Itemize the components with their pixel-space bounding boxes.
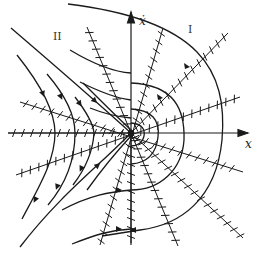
isocline-tick — [223, 221, 231, 225]
isocline-tick — [191, 66, 195, 74]
phase-portrait-diagram: x ẋ I II — [0, 0, 262, 262]
region-label-2: II — [53, 30, 62, 43]
isocline-tick — [23, 100, 28, 107]
trajectory-arc — [68, 4, 223, 236]
isocline-tick — [134, 124, 138, 132]
isocline-tick — [222, 33, 226, 41]
isocline-tick — [145, 148, 153, 152]
arrow-icon — [184, 63, 190, 69]
trajectories-left — [11, 28, 131, 247]
arrow-icon — [157, 94, 163, 100]
trajectories-right — [68, 4, 223, 236]
isocline-tick — [172, 85, 176, 93]
arrow-icon — [116, 187, 122, 193]
isocline-tick — [221, 162, 226, 169]
isocline-tick — [57, 111, 62, 118]
y-axis-label: ẋ — [139, 14, 146, 28]
isocline-tick — [160, 144, 165, 151]
isocline-tick — [178, 178, 186, 182]
isocline-tick — [209, 46, 213, 54]
isocline-tick — [178, 79, 182, 87]
axes — [8, 12, 248, 245]
isocline-tick — [229, 165, 234, 172]
isocline-tick — [66, 114, 71, 121]
isocline-tick — [191, 191, 199, 195]
trajectory — [87, 136, 131, 190]
isocline-tick — [212, 160, 217, 167]
trajectory — [83, 83, 131, 130]
isocline-tick — [217, 215, 225, 219]
isocline-tick — [143, 138, 148, 145]
isocline-tick — [164, 166, 172, 170]
isocline-steep-1 — [87, 27, 178, 246]
trajectory — [17, 55, 55, 219]
isocline-tick — [230, 228, 238, 232]
separatrix — [11, 28, 131, 247]
isocline-tick — [237, 234, 245, 238]
isoclines — [8, 27, 244, 246]
region-label-1: I — [188, 23, 192, 36]
trajectory — [62, 190, 131, 210]
isocline-tick — [153, 105, 157, 113]
isocline-tick — [184, 72, 188, 80]
x-axis-label: x — [245, 137, 252, 151]
trajectory-arc — [70, 50, 131, 73]
x-axis-arrow-icon — [238, 130, 248, 137]
isocline-tick — [40, 106, 45, 113]
isocline-tick — [216, 40, 220, 48]
isocline-tick — [197, 59, 201, 67]
arrow-icon — [116, 226, 122, 232]
isocline-tick — [195, 154, 200, 161]
isocline-tick — [171, 172, 179, 176]
isocline-tick — [141, 117, 145, 125]
phase-portrait-svg: x ẋ I II — [0, 0, 262, 262]
isocline-tick — [203, 157, 208, 164]
isocline-tick — [204, 203, 212, 207]
isocline-tick — [184, 184, 192, 188]
isocline-tick — [158, 160, 166, 164]
isocline-tick — [186, 152, 191, 159]
isocline-tick — [210, 209, 218, 213]
isocline-tick — [75, 117, 80, 124]
trajectory — [47, 74, 75, 205]
isocline-tick — [169, 146, 174, 153]
isocline-se — [131, 133, 243, 238]
arrow-icon — [39, 90, 47, 98]
isocline-tick — [83, 119, 88, 126]
isocline-tick — [32, 103, 37, 110]
trajectory-arc — [80, 82, 131, 100]
